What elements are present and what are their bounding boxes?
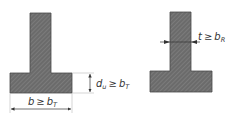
flange-height-label: du≥bT xyxy=(96,78,130,91)
web-thickness-label: t≥bR xyxy=(198,31,225,44)
arrow-right-icon xyxy=(164,40,170,44)
flange-width-label: b≥bT xyxy=(28,96,58,109)
left-t-shape xyxy=(10,13,72,93)
t-section-diagram: du≥bT b≥bT t≥bR xyxy=(0,0,236,116)
right-t-shape xyxy=(150,12,212,92)
right-t-section: t≥bR xyxy=(150,12,225,92)
left-t-section: du≥bT b≥bT xyxy=(10,13,130,113)
arrow-left-icon xyxy=(191,40,197,44)
